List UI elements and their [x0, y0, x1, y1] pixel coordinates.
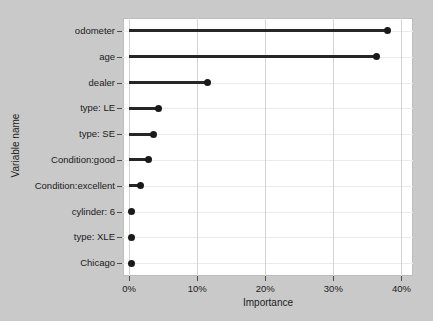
gridline-horizontal	[123, 263, 413, 264]
x-axis-tick-label: 20%	[256, 283, 275, 294]
y-axis-tick-label: odometer	[75, 26, 115, 36]
x-axis-tick-mark	[265, 276, 266, 281]
x-axis-tick-label: 10%	[188, 283, 207, 294]
x-axis-tick-mark	[401, 276, 402, 281]
lollipop-stem	[129, 81, 207, 84]
lollipop-point	[137, 182, 144, 189]
y-axis-tick-mark	[117, 83, 122, 84]
y-axis-tick-mark	[117, 237, 122, 238]
lollipop-point	[150, 131, 157, 138]
y-axis-tick-label: Condition:excellent	[35, 181, 115, 191]
chart-figure: odometeragedealertype: LEtype: SEConditi…	[0, 0, 433, 321]
y-axis-title: Variable name	[10, 91, 21, 201]
y-axis-tick-label: Chicago	[80, 258, 115, 268]
x-axis-tick-label: 30%	[324, 283, 343, 294]
lollipop-stem	[129, 55, 377, 58]
lollipop-point	[384, 27, 391, 34]
y-axis-tick-label: dealer	[89, 78, 115, 88]
y-axis-tick-mark	[117, 160, 122, 161]
lollipop-point	[128, 208, 135, 215]
y-axis-tick-mark	[117, 108, 122, 109]
lollipop-point	[204, 79, 211, 86]
lollipop-point	[128, 234, 135, 241]
x-axis-tick-label: 40%	[392, 283, 411, 294]
lollipop-point	[373, 53, 380, 60]
y-axis-tick-label: Condition:good	[51, 155, 115, 165]
gridline-horizontal	[123, 134, 413, 135]
y-axis-tick-mark	[117, 263, 122, 264]
gridline-horizontal	[123, 108, 413, 109]
y-axis-tick-mark	[117, 134, 122, 135]
gridline-horizontal	[123, 160, 413, 161]
x-axis-tick-mark	[333, 276, 334, 281]
plot-panel	[123, 18, 413, 276]
gridline-horizontal	[123, 212, 413, 213]
gridline-horizontal	[123, 186, 413, 187]
lollipop-stem	[129, 29, 388, 32]
y-axis-tick-label: type: LE	[80, 103, 115, 113]
x-axis-title: Importance	[123, 297, 413, 308]
lollipop-point	[145, 156, 152, 163]
gridline-horizontal	[123, 237, 413, 238]
y-axis-tick-mark	[117, 212, 122, 213]
x-axis-tick-mark	[129, 276, 130, 281]
y-axis-tick-mark	[117, 57, 122, 58]
gridline-vertical	[401, 18, 402, 276]
y-axis-tick-label: type: XLE	[74, 232, 115, 242]
y-axis-tick-label: cylinder: 6	[72, 207, 115, 217]
x-axis-tick-label: 0%	[122, 283, 136, 294]
y-axis-tick-label: type: SE	[79, 129, 115, 139]
x-axis-tick-mark	[197, 276, 198, 281]
y-axis-tick-mark	[117, 31, 122, 32]
y-axis-tick-label: age	[99, 52, 115, 62]
lollipop-point	[128, 260, 135, 267]
lollipop-point	[155, 105, 162, 112]
y-axis-tick-mark	[117, 186, 122, 187]
